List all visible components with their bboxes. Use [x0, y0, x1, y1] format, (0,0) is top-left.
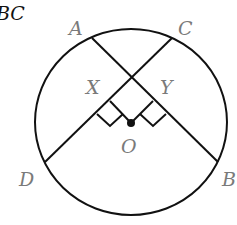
center-point-o — [127, 119, 135, 127]
right-angle-marker-y — [140, 114, 166, 126]
circle-chord-diagram: BC A C X Y O D B — [0, 0, 237, 225]
label-y: Y — [160, 76, 175, 98]
label-b: B — [221, 168, 236, 190]
label-d: D — [18, 168, 34, 190]
label-c: C — [178, 17, 193, 39]
segment-ox — [110, 101, 131, 123]
label-a: A — [67, 17, 83, 39]
segment-oy — [131, 101, 153, 123]
label-o: O — [121, 135, 137, 157]
title-fragment: BC — [0, 2, 25, 24]
right-angle-marker-x — [97, 114, 123, 126]
label-x: X — [84, 76, 101, 98]
